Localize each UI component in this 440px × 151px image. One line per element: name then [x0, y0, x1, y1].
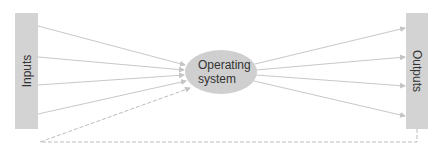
outputs-label: Outputs — [410, 50, 424, 92]
output-arrow-4 — [254, 81, 405, 116]
input-arrow-3 — [38, 75, 184, 85]
inputs-box: Inputs — [15, 13, 38, 129]
feedback-path — [40, 88, 417, 142]
operating-system-node: Operating system — [185, 50, 257, 94]
input-arrows — [38, 26, 186, 114]
input-arrow-4 — [38, 81, 186, 114]
os-label-line1: Operating — [198, 58, 251, 72]
os-io-diagram: Inputs Outputs Operating system — [0, 0, 440, 151]
output-arrow-3 — [256, 75, 405, 86]
feedback-loop — [40, 88, 417, 142]
os-label-line2: system — [198, 72, 236, 86]
outputs-box: Outputs — [406, 13, 428, 129]
inputs-label: Inputs — [20, 55, 34, 88]
output-arrows — [254, 28, 405, 116]
output-arrow-2 — [256, 57, 405, 70]
